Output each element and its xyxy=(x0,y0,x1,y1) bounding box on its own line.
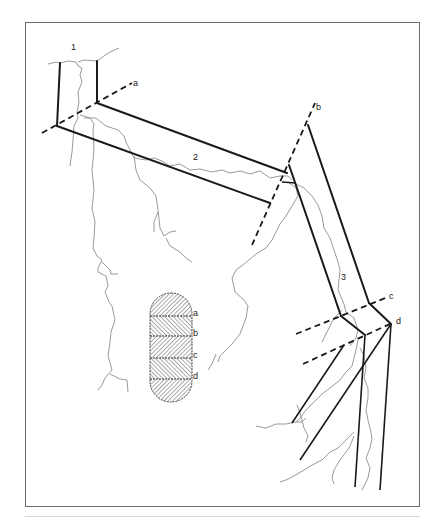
section-label-c: c xyxy=(389,291,394,301)
figure-frame xyxy=(26,23,420,507)
legend-label-d: d xyxy=(193,371,198,381)
legend-label-c: c xyxy=(193,350,198,360)
section-line-a xyxy=(42,83,132,133)
bottom-divider xyxy=(25,516,420,517)
tunnel-section-diagram: 1 2 3 a b c d a b c d xyxy=(0,0,430,525)
section-line-b xyxy=(252,103,315,245)
section-line-c xyxy=(296,297,388,334)
segment-3-walls xyxy=(282,125,369,316)
segment-label-3: 3 xyxy=(341,272,346,282)
section-label-a: a xyxy=(133,78,138,88)
segment-label-2: 2 xyxy=(193,152,198,162)
legend-label-b: b xyxy=(193,328,198,338)
segment-1-walls xyxy=(57,61,97,126)
segment-label-1: 1 xyxy=(71,42,76,52)
hatched-legend-capsule xyxy=(150,293,192,402)
section-label-b: b xyxy=(316,102,321,112)
section-label-d: d xyxy=(396,316,401,326)
legend-label-a: a xyxy=(193,308,198,318)
